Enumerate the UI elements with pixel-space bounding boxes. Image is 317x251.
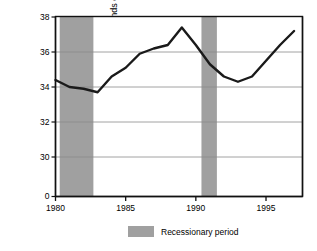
y-tick-label: 32 <box>28 118 50 127</box>
y-tick-label: 38 <box>28 13 50 22</box>
recession-band <box>60 17 94 197</box>
y-tick-label: 36 <box>28 48 50 57</box>
x-tick-label: 1990 <box>181 204 211 213</box>
y-tick-label: 30 <box>28 153 50 162</box>
chart-figure: Income in thousands of 1997 dollars 0303… <box>0 0 317 251</box>
y-tick-label: 0 <box>28 192 50 201</box>
x-tick-label: 1985 <box>111 204 141 213</box>
chart-legend: Recessionary period <box>128 226 238 237</box>
recession-band <box>201 17 216 197</box>
x-tick-label: 1980 <box>41 204 71 213</box>
y-tick-label: 34 <box>28 83 50 92</box>
recession-band-swatch <box>128 226 154 237</box>
legend-label: Recessionary period <box>161 227 238 237</box>
x-tick-label: 1995 <box>251 204 281 213</box>
